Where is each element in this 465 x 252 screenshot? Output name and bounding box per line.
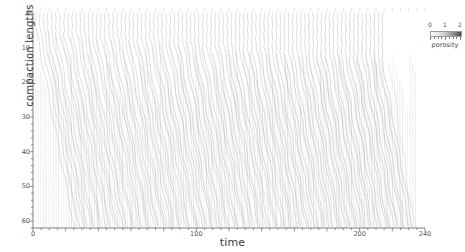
wave-track-conjugate — [89, 38, 119, 227]
colorbar-ticks — [430, 37, 460, 40]
plot-area — [0, 0, 465, 252]
colorbar-tick-labels: 012 — [430, 22, 460, 30]
colorbar-tick — [460, 37, 461, 40]
wave-track — [292, 13, 323, 226]
wave-track — [272, 13, 307, 226]
wave-track — [96, 13, 132, 226]
colorbar-legend: 012 porosity — [430, 22, 463, 49]
colorbar-tick — [449, 37, 450, 39]
colorbar-tick-label: 1 — [443, 22, 447, 28]
wave-track-conjugate — [317, 57, 343, 227]
wave-track — [72, 13, 110, 226]
wave-tracks — [35, 13, 415, 228]
wave-track — [154, 13, 190, 227]
wave-track-conjugate — [153, 44, 181, 226]
colorbar-tick — [445, 37, 446, 40]
colorbar-tick — [456, 37, 457, 39]
colorbar-tick-label: 0 — [428, 22, 432, 28]
wave-track — [378, 13, 409, 227]
wave-track-conjugate — [341, 59, 367, 226]
colorbar-tick — [441, 37, 442, 39]
colorbar-tick — [453, 37, 454, 39]
colorbar-tick — [430, 37, 431, 40]
wave-track — [345, 13, 377, 226]
colorbar-label: porosity — [430, 41, 460, 49]
wave-track — [113, 13, 149, 227]
chart-figure: compaction lengths time 0102030405060 01… — [0, 0, 465, 252]
colorbar-tick — [438, 37, 439, 39]
colorbar-tick — [434, 37, 435, 39]
colorbar-tick-label: 2 — [458, 22, 462, 28]
